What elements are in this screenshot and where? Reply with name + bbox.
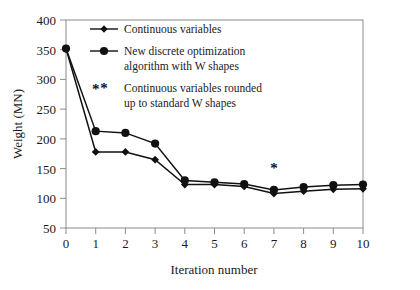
y-axis-tick-labels: 400 350 300 250 200 150 100 50 [37, 13, 57, 236]
circle-marker-icon [121, 129, 129, 137]
star-annotation-icon: * [270, 160, 278, 176]
star-marker-icon: * [100, 80, 108, 96]
x-tick-label: 9 [330, 236, 337, 251]
y-tick-label: 400 [37, 13, 57, 28]
circle-marker-icon [359, 181, 367, 189]
circle-marker-icon [100, 47, 108, 55]
chart-figure: 400 350 300 250 200 150 100 50 0 1 [0, 0, 420, 290]
x-tick-label: 1 [92, 236, 99, 251]
legend-label: algorithm with W shapes [124, 60, 239, 73]
x-tick-label: 4 [182, 236, 189, 251]
circle-marker-icon [270, 186, 278, 194]
star-annotation-icon: * [92, 81, 100, 97]
x-tick-label: 2 [122, 236, 129, 251]
x-axis-ticks [66, 228, 363, 234]
y-axis-title: Weight (MN) [10, 89, 25, 159]
circle-marker-icon [151, 140, 159, 148]
line-chart: 400 350 300 250 200 150 100 50 0 1 [0, 0, 420, 290]
x-tick-label: 10 [357, 236, 370, 251]
legend-label: New discrete optimization [124, 45, 246, 58]
circle-marker-icon [62, 44, 70, 52]
y-tick-label: 250 [37, 102, 57, 117]
y-tick-label: 50 [43, 221, 56, 236]
circle-marker-icon [240, 180, 248, 188]
x-tick-label: 6 [241, 236, 248, 251]
legend-label: Continuous variables rounded [124, 82, 262, 94]
y-tick-label: 150 [37, 162, 57, 177]
y-tick-label: 350 [37, 43, 57, 58]
x-axis-tick-labels: 0 1 2 3 4 5 6 7 8 9 10 [63, 236, 370, 251]
x-tick-label: 8 [300, 236, 307, 251]
x-tick-label: 7 [271, 236, 278, 251]
legend-label: Continuous variables [124, 23, 222, 35]
legend-label: up to standard W shapes [124, 97, 237, 110]
circle-marker-icon [181, 176, 189, 184]
x-tick-label: 5 [211, 236, 218, 251]
x-axis-title: Iteration number [171, 262, 259, 277]
circle-marker-icon [210, 178, 218, 186]
circle-marker-icon [300, 183, 308, 191]
circle-marker-icon [92, 127, 100, 135]
y-tick-label: 300 [37, 72, 57, 87]
x-tick-label: 0 [63, 236, 70, 251]
y-tick-label: 100 [37, 191, 57, 206]
x-tick-label: 3 [152, 236, 159, 251]
circle-marker-icon [329, 181, 337, 189]
y-tick-label: 200 [37, 132, 57, 147]
